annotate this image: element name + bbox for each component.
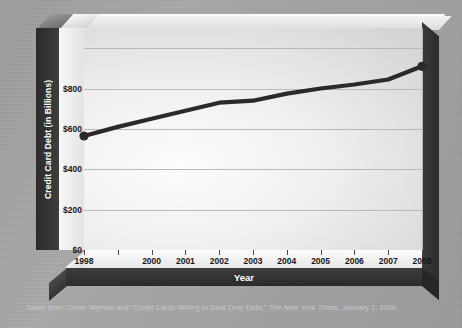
y-axis-title: Credit Card Debt (in Billions)	[36, 28, 59, 250]
x-tick-mark	[219, 250, 220, 255]
caption-source: The New York Times	[269, 303, 338, 312]
x-tick-mark	[185, 250, 186, 255]
data-series-layer	[84, 28, 422, 250]
caption-prefix: Taken from: Oliver Wyman and “Credit Car…	[26, 303, 269, 312]
y-tick-label: $0	[36, 245, 82, 255]
x-axis-floor: 1998200020012002200320042005200620072008	[84, 250, 422, 268]
x-tick-mark	[118, 250, 119, 255]
x-tick-mark	[388, 250, 389, 255]
y-tick-label: $200	[36, 205, 82, 215]
x-tick-mark	[287, 250, 288, 255]
chart-figure: Credit Card Debt (in Billions) $0$200$40…	[22, 8, 442, 290]
x-tick-mark	[422, 250, 423, 255]
x-axis-bar-bevel	[49, 268, 67, 301]
x-axis-title: Year	[66, 268, 422, 286]
x-tick-mark	[152, 250, 153, 255]
x-tick-mark	[84, 250, 85, 255]
page-background: Credit Card Debt (in Billions) $0$200$40…	[0, 0, 462, 328]
marker-end-point	[417, 62, 426, 71]
y-tick-label: $400	[36, 164, 82, 174]
x-tick-mark	[321, 250, 322, 255]
marker-start-point	[79, 131, 88, 140]
figure-caption: Taken from: Oliver Wyman and “Credit Car…	[26, 303, 446, 312]
x-tick-mark	[354, 250, 355, 255]
y-tick-label: $600	[36, 124, 82, 134]
x-tick-label: 2008	[402, 256, 442, 266]
line-credit-card-debt	[84, 66, 422, 136]
chart-right-wall	[422, 22, 439, 286]
caption-suffix: , January 3, 2009.	[338, 303, 398, 312]
x-tick-label: 1998	[64, 256, 104, 266]
y-tick-label: $800	[36, 84, 82, 94]
x-tick-mark	[253, 250, 254, 255]
y-axis-face: $0$200$400$600$800	[59, 28, 84, 250]
